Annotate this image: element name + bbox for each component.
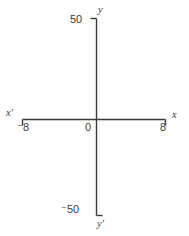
x-axis-max-tick-label: 8 — [160, 122, 166, 133]
y-prime-axis-name-label: y' — [97, 219, 104, 230]
y-axis-max-tick-label: 50 — [70, 14, 82, 25]
axes-drawing — [0, 0, 189, 236]
x-prime-axis-name-label: x' — [6, 108, 13, 119]
coordinate-axes-figure: 50 y ⁻50 y' ⁻8 x' 8 x 0 — [0, 0, 189, 236]
y-axis-min-tick-label: ⁻50 — [61, 204, 79, 215]
origin-label: 0 — [85, 122, 91, 133]
y-axis-name-label: y — [98, 5, 103, 16]
x-axis-min-tick-label: ⁻8 — [17, 122, 29, 133]
x-axis-name-label: x — [172, 110, 177, 121]
